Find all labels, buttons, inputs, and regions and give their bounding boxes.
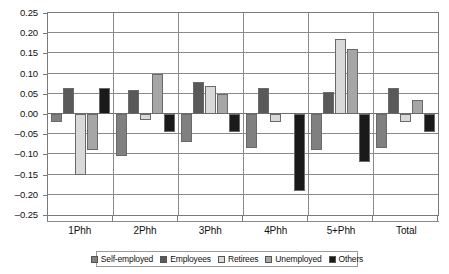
bar[interactable] <box>205 86 216 114</box>
y-tick-label: 0.20 <box>20 28 38 38</box>
legend-item[interactable]: Retirees <box>218 255 258 264</box>
bar-slot <box>140 13 151 215</box>
bar[interactable] <box>229 114 240 132</box>
bar-cluster <box>243 13 308 215</box>
x-axis-category-label: 4Phh <box>243 224 308 240</box>
legend-swatch-icon <box>218 256 225 263</box>
bar-group <box>113 13 178 215</box>
bar-slot <box>217 13 228 215</box>
x-axis-category-label: 1Phh <box>47 224 112 240</box>
bar-slot <box>246 13 257 215</box>
bar[interactable] <box>140 114 151 120</box>
bar[interactable] <box>217 94 228 114</box>
bar[interactable] <box>400 114 411 122</box>
bar-slot <box>359 13 370 215</box>
y-tick-label: 0.05 <box>20 89 38 99</box>
bar-slot <box>75 13 86 215</box>
bar[interactable] <box>128 90 139 114</box>
bar-cluster <box>178 13 243 215</box>
bar-slot <box>294 13 305 215</box>
legend-item[interactable]: Unemployed <box>265 255 321 264</box>
bar-slot <box>323 13 334 215</box>
bar-slot <box>99 13 110 215</box>
bar[interactable] <box>75 114 86 175</box>
bar[interactable] <box>311 114 322 150</box>
legend-label: Retirees <box>228 255 258 264</box>
bar-slot <box>388 13 399 215</box>
bar[interactable] <box>270 114 281 122</box>
x-axis-labels: 1Phh2Phh3Phh4Phh5+PhhTotal <box>47 224 439 240</box>
bar-cluster <box>48 13 113 215</box>
y-tick-label: –0.20 <box>15 190 38 200</box>
y-tick-label: –0.15 <box>15 170 38 180</box>
bar[interactable] <box>51 114 62 122</box>
bar-slot <box>400 13 411 215</box>
bar-slot <box>193 13 204 215</box>
legend-swatch-icon <box>91 256 98 263</box>
bar-cluster <box>113 13 178 215</box>
x-axis-category-label: 5+Phh <box>308 224 373 240</box>
bar-slot <box>63 13 74 215</box>
bar-slot <box>181 13 192 215</box>
bar-slot <box>205 13 216 215</box>
y-tick-label: 0.25 <box>20 8 38 18</box>
bar[interactable] <box>412 100 423 114</box>
bar[interactable] <box>347 49 358 114</box>
bar-cluster <box>308 13 373 215</box>
chart-legend: Self-employedEmployeesRetireesUnemployed… <box>96 251 358 267</box>
legend-item[interactable]: Self-employed <box>91 255 153 264</box>
bar-slot <box>152 13 163 215</box>
legend-item[interactable]: Others <box>329 255 364 264</box>
bar[interactable] <box>164 114 175 132</box>
bar[interactable] <box>246 114 257 148</box>
bar-slot <box>282 13 293 215</box>
bar-slot <box>412 13 423 215</box>
bar-group <box>178 13 243 215</box>
bar-slot <box>229 13 240 215</box>
x-axis-category-label: 2Phh <box>112 224 177 240</box>
legend-swatch-icon <box>160 256 167 263</box>
bar-groups <box>48 13 438 215</box>
bar-group <box>373 13 438 215</box>
x-axis-category-label: Total <box>374 224 439 240</box>
bar-group <box>308 13 373 215</box>
bar-group <box>243 13 308 215</box>
legend-label: Self-employed <box>101 255 153 264</box>
bar[interactable] <box>87 114 98 150</box>
bar[interactable] <box>359 114 370 162</box>
bar[interactable] <box>181 114 192 142</box>
y-tick-label: 0.00 <box>20 109 38 119</box>
bar-cluster <box>373 13 438 215</box>
bar-slot <box>51 13 62 215</box>
bar[interactable] <box>193 82 204 114</box>
bar-slot <box>335 13 346 215</box>
bar-slot <box>424 13 435 215</box>
bar[interactable] <box>294 114 305 191</box>
bar[interactable] <box>99 88 110 114</box>
y-tick-label: 0.10 <box>20 69 38 79</box>
y-tick-label: –0.05 <box>15 129 38 139</box>
grouped-bar-chart: 0.250.200.150.100.050.00–0.05–0.10–0.15–… <box>0 0 449 274</box>
bar[interactable] <box>335 39 346 114</box>
bar-slot <box>376 13 387 215</box>
bar[interactable] <box>63 88 74 114</box>
bar[interactable] <box>424 114 435 132</box>
x-axis-line <box>47 221 439 222</box>
legend-label: Others <box>339 255 364 264</box>
bar-slot <box>128 13 139 215</box>
bar[interactable] <box>152 74 163 114</box>
bar[interactable] <box>376 114 387 148</box>
bar-slot <box>164 13 175 215</box>
y-tick-label: 0.15 <box>20 49 38 59</box>
bar[interactable] <box>116 114 127 156</box>
bar[interactable] <box>323 92 334 114</box>
legend-swatch-icon <box>265 256 272 263</box>
legend-label: Employees <box>170 255 211 264</box>
y-tick-label: –0.10 <box>15 150 38 160</box>
bar[interactable] <box>388 88 399 114</box>
bar-slot <box>116 13 127 215</box>
bar[interactable] <box>258 88 269 114</box>
x-axis-category-label: 3Phh <box>178 224 243 240</box>
legend-item[interactable]: Employees <box>160 255 211 264</box>
legend-label: Unemployed <box>275 255 321 264</box>
